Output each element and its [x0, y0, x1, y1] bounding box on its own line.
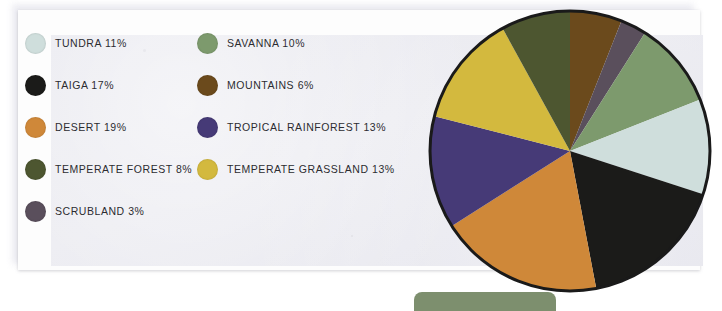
desert-swatch [25, 117, 46, 138]
legend-item-label: TEMPERATE FOREST 8% [55, 163, 192, 175]
mountains-swatch [197, 75, 218, 96]
chart-legend: TUNDRA 11%SAVANNA 10%TAIGA 17%MOUNTAINS … [25, 22, 455, 232]
chart-screenshot: TUNDRA 11%SAVANNA 10%TAIGA 17%MOUNTAINS … [0, 0, 722, 311]
legend-item-label: SAVANNA 10% [227, 37, 305, 49]
legend-item-label: TUNDRA 11% [55, 37, 127, 49]
tundra-swatch [25, 33, 46, 54]
legend-item-tropical-rainforest[interactable]: TROPICAL RAINFOREST 13% [197, 106, 455, 148]
legend-item-label: TROPICAL RAINFOREST 13% [227, 121, 386, 133]
taiga-swatch [25, 75, 46, 96]
legend-item-label: MOUNTAINS 6% [227, 79, 314, 91]
temperate-forest-swatch [25, 159, 46, 180]
savanna-swatch [197, 33, 218, 54]
legend-item-label: TEMPERATE GRASSLAND 13% [227, 163, 395, 175]
pie-chart-svg [427, 8, 713, 294]
legend-item-temperate-forest[interactable]: TEMPERATE FOREST 8% [25, 148, 197, 190]
bottom-green-bar [414, 292, 556, 311]
legend-item-desert[interactable]: DESERT 19% [25, 106, 197, 148]
legend-item-label: SCRUBLAND 3% [55, 205, 144, 217]
legend-item-scrubland[interactable]: SCRUBLAND 3% [25, 190, 197, 232]
legend-item-label: TAIGA 17% [55, 79, 114, 91]
legend-item-label: DESERT 19% [55, 121, 127, 133]
tropical-rainforest-swatch [197, 117, 218, 138]
legend-item-savanna[interactable]: SAVANNA 10% [197, 22, 455, 64]
legend-item-taiga[interactable]: TAIGA 17% [25, 64, 197, 106]
temperate-grassland-swatch [197, 159, 218, 180]
scrubland-swatch [25, 201, 46, 222]
paper-speck [351, 235, 353, 237]
legend-item-mountains[interactable]: MOUNTAINS 6% [197, 64, 455, 106]
legend-item-temperate-grassland[interactable]: TEMPERATE GRASSLAND 13% [197, 148, 455, 190]
pie-chart [427, 8, 713, 294]
legend-item-tundra[interactable]: TUNDRA 11% [25, 22, 197, 64]
